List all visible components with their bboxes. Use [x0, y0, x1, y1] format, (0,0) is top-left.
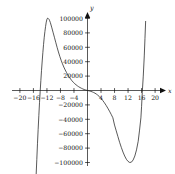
x-axis-arrow-icon	[160, 88, 166, 93]
x-tick-label: −12	[40, 94, 53, 101]
plot-figure: −20−16−12−8−448121620 −100000−80000−6000…	[0, 0, 175, 174]
y-tick-label: 100000	[59, 15, 83, 22]
y-tick-label: −40000	[58, 116, 83, 123]
y-tick-label: −100000	[54, 159, 83, 166]
y-tick-label: 20000	[63, 72, 83, 79]
y-tick-label: −80000	[58, 144, 83, 151]
y-tick-label: 80000	[63, 29, 83, 36]
x-tick-label: −20	[13, 94, 26, 101]
y-tick-label: 40000	[63, 58, 83, 65]
plot-canvas: −20−16−12−8−448121620 −100000−80000−6000…	[0, 0, 175, 174]
x-tick-label: 8	[113, 94, 117, 101]
y-tick-label: −60000	[58, 130, 83, 137]
x-tick-label: −4	[69, 94, 78, 101]
x-tick-label: 20	[151, 94, 159, 101]
axes-group	[12, 12, 166, 166]
x-tick-label: −16	[27, 94, 40, 101]
y-axis-title: y	[89, 4, 94, 12]
x-tick-label-group: −20−16−12−8−448121620	[13, 94, 159, 101]
x-tick-label: −8	[56, 94, 65, 101]
x-axis-title: x	[168, 87, 172, 95]
x-tick-label: 12	[124, 94, 132, 101]
y-tick-label: −20000	[58, 101, 83, 108]
y-tick-label: 60000	[63, 44, 83, 51]
y-axis-arrow-icon	[85, 12, 90, 18]
